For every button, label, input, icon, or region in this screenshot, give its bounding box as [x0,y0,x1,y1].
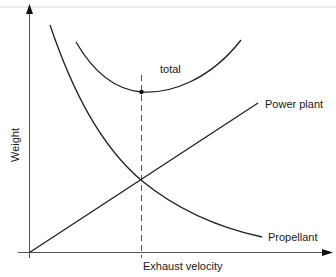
power-plant-curve [30,103,259,253]
power-plant-label: Power plant [265,98,323,110]
y-axis-arrow-icon [26,4,33,14]
total-label: total [160,63,181,75]
x-axis-arrow-icon [322,249,333,256]
x-axis-label: Exhaust velocity [143,260,223,272]
total-minimum-point [139,90,143,94]
total-curve [76,40,241,92]
y-axis-label: Weight [9,128,21,162]
propellant-curve [50,25,262,237]
propellant-label: Propellant [268,231,318,243]
weight-vs-exhaust-velocity-chart: total Power plant Propellant Exhaust vel… [0,0,336,277]
